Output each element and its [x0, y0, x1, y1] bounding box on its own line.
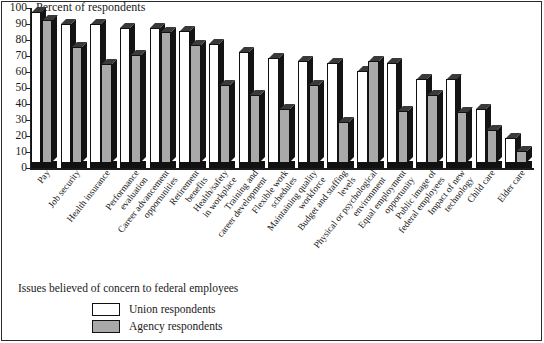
y-tick-label: 50 — [1, 82, 27, 93]
bar-union — [31, 12, 41, 162]
bar-side-face — [438, 90, 443, 162]
bar-group — [119, 8, 149, 168]
bar-union — [387, 63, 397, 162]
bar-agency — [72, 47, 82, 162]
bar-side-face — [497, 125, 502, 162]
bar-side-face — [290, 104, 295, 162]
bar-side-face — [379, 56, 384, 162]
legend-swatch-union — [92, 303, 120, 316]
bar-side-face — [319, 80, 324, 162]
bar-side-face — [467, 107, 472, 162]
y-tick-label: 30 — [1, 114, 27, 125]
bar-agency — [190, 45, 200, 162]
legend-entries: Union respondentsAgency respondents — [18, 302, 238, 334]
bar-base-shadow — [209, 161, 235, 168]
y-tick-label: 10 — [1, 146, 27, 157]
bar-group — [60, 8, 90, 168]
bar-group — [178, 8, 208, 168]
legend-label: Union respondents — [129, 302, 216, 317]
bar-agency — [250, 95, 260, 162]
bar-union — [239, 52, 249, 162]
bar-agency — [279, 109, 289, 162]
bar-base-shadow — [120, 161, 146, 168]
bar-union — [179, 31, 189, 162]
bar-side-face — [171, 27, 176, 162]
bar-union — [209, 44, 219, 162]
legend-title: Issues believed of concern to federal em… — [18, 281, 238, 296]
bar-agency — [457, 112, 467, 162]
bar-group — [30, 8, 60, 168]
bar-group — [208, 8, 238, 168]
bar-base-shadow — [298, 161, 324, 168]
bar-agency — [161, 32, 171, 162]
bar-union — [61, 24, 71, 162]
bar-group — [89, 8, 119, 168]
bar-agency — [131, 55, 141, 162]
bar-union — [327, 63, 337, 162]
bar-agency — [516, 151, 526, 162]
bar-agency — [309, 85, 319, 162]
bar-union — [446, 79, 456, 162]
bar-union — [150, 28, 160, 162]
bar-group — [356, 8, 386, 168]
chart-figure: 0102030405060708090100 Percent of respon… — [0, 0, 544, 343]
bar-group — [238, 8, 268, 168]
bar-agency — [101, 64, 111, 162]
bar-side-face — [141, 50, 146, 162]
bar-union — [298, 61, 308, 162]
legend-item-agency: Agency respondents — [92, 319, 238, 334]
x-axis-category-labels: PayJob securityHealth insurancePerforman… — [0, 168, 544, 278]
y-tick-label: 80 — [1, 34, 27, 45]
bar-union — [476, 109, 486, 162]
bar-agency — [220, 85, 230, 162]
bar-group — [326, 8, 356, 168]
legend: Issues believed of concern to federal em… — [18, 281, 238, 336]
y-tick-label: 20 — [1, 130, 27, 141]
category-label-line: Elder care — [495, 168, 527, 205]
bar-agency — [487, 130, 497, 162]
bar-group — [504, 8, 534, 168]
bar-union — [416, 79, 426, 162]
y-tick-label: 90 — [1, 18, 27, 29]
plot-area — [30, 8, 534, 168]
legend-swatch-agency — [92, 320, 120, 333]
bar-union — [357, 71, 367, 162]
bar-group — [267, 8, 297, 168]
bar-side-face — [112, 59, 117, 162]
legend-item-union: Union respondents — [92, 302, 238, 317]
bar-side-face — [349, 117, 354, 162]
bar-group — [415, 8, 445, 168]
bar-union — [120, 28, 130, 162]
y-tick-label: 70 — [1, 50, 27, 61]
category-label: Pay — [36, 168, 53, 186]
bar-base-shadow — [387, 161, 413, 168]
bar-base-shadow — [31, 161, 57, 168]
bar-group — [475, 8, 505, 168]
bar-union — [90, 24, 100, 162]
bar-agency — [427, 95, 437, 162]
bar-group — [445, 8, 475, 168]
bar-side-face — [408, 106, 413, 162]
y-tick-label: 60 — [1, 66, 27, 77]
y-axis-labels: 0102030405060708090100 — [0, 0, 27, 180]
bar-side-face — [82, 42, 87, 162]
bar-side-face — [260, 90, 265, 162]
category-label-line: Pay — [36, 168, 53, 186]
bar-side-face — [201, 40, 206, 162]
bar-union — [268, 58, 278, 162]
legend-label: Agency respondents — [129, 319, 223, 334]
bar-base-shadow — [446, 161, 472, 168]
bar-side-face — [230, 80, 235, 162]
bar-side-face — [52, 15, 57, 162]
bar-group — [386, 8, 416, 168]
bar-union — [505, 138, 515, 162]
bar-group — [297, 8, 327, 168]
bar-group — [149, 8, 179, 168]
bar-agency — [42, 20, 52, 162]
bar-agency — [368, 61, 378, 162]
bar-agency — [338, 122, 348, 162]
y-tick-label: 100 — [1, 2, 27, 13]
y-tick-label: 40 — [1, 98, 27, 109]
category-label: Elder care — [495, 168, 527, 205]
bar-agency — [398, 111, 408, 162]
